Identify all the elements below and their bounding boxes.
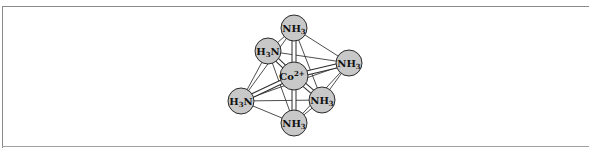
ligand-upper-left: H3N <box>255 38 281 64</box>
ligand-lower-right: NH3 <box>309 87 335 113</box>
octahedral-complex-diagram: NH3 H3N NH3 H3N Co2+ NH3 NH3 <box>0 0 589 148</box>
ligand-left: H3N <box>228 88 254 114</box>
central-metal-cobalt: Co2+ <box>279 62 308 90</box>
ligand-right: NH3 <box>336 50 362 76</box>
ligand-bottom: NH3 <box>281 110 307 136</box>
ligand-top: NH3 <box>281 15 307 41</box>
